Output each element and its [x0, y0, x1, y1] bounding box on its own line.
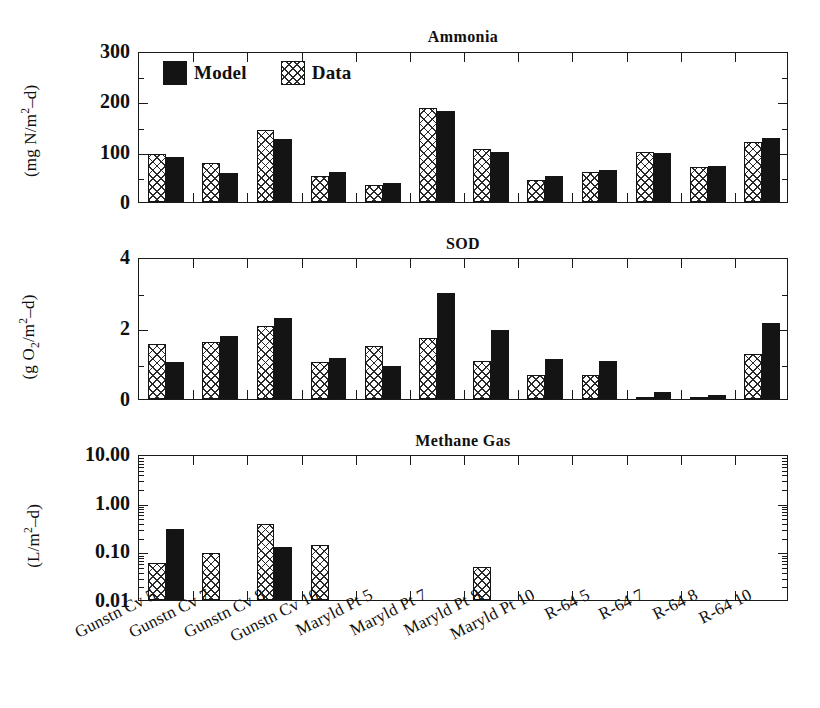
figure-root: Ammonia (mg N/m2–d) ModelData SOD (g O2/… [0, 0, 820, 708]
y-tick-label-sod: 4 [0, 247, 130, 267]
y-tick-label-ammonia: 300 [0, 41, 130, 61]
y-tick-label-sod: 2 [0, 318, 130, 338]
y-tick-label-ammonia: 200 [0, 91, 130, 111]
y-tick-label-ammonia: 100 [0, 142, 130, 162]
y-tick-label-sod: 0 [0, 389, 130, 409]
y-tick-label-methane: 0.10 [0, 541, 130, 561]
y-tick-label-methane: 1.00 [0, 493, 130, 513]
y-tick-label-ammonia: 0 [0, 192, 130, 212]
y-tick-label-methane: 0.01 [0, 590, 130, 610]
y-tick-label-methane: 10.00 [0, 444, 130, 464]
